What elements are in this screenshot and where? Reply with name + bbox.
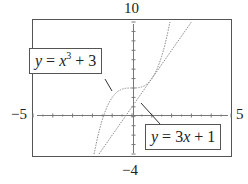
plus: + — [194, 128, 203, 145]
plus: + — [75, 52, 84, 69]
var-x: x — [183, 128, 190, 145]
var-y: y — [35, 52, 42, 69]
cubic-equation-label: y = x3 + 3 — [29, 48, 102, 74]
cubic-leader-line — [105, 79, 112, 91]
x-axis-ticks — [33, 114, 231, 118]
equals: = — [162, 128, 171, 145]
graph-plot — [0, 0, 248, 184]
x-min-label: −5 — [11, 107, 27, 122]
linear-leader-line — [141, 103, 160, 124]
constant: 1 — [207, 128, 215, 145]
x-max-label: 5 — [236, 107, 244, 122]
constant: 3 — [88, 52, 96, 69]
coefficient: 3 — [175, 128, 183, 145]
var-y: y — [151, 128, 158, 145]
y-max-label: 10 — [124, 1, 139, 16]
linear-equation-label: y = 3x + 1 — [145, 124, 221, 150]
exponent: 3 — [66, 50, 71, 61]
equals: = — [46, 52, 55, 69]
y-min-label: −4 — [122, 163, 138, 178]
